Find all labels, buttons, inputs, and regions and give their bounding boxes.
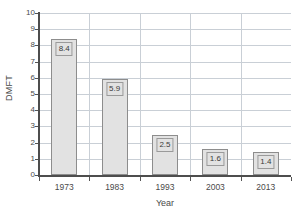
bar[interactable] — [51, 39, 77, 175]
bar-value-label: 1.6 — [207, 152, 224, 166]
x-axis-tick-label: 1983 — [105, 182, 124, 192]
x-axis-tick-label: 1993 — [156, 182, 175, 192]
x-axis-tickmark — [89, 177, 90, 181]
y-axis-title: DMFT — [0, 0, 18, 175]
bar-value-label: 2.5 — [156, 138, 173, 152]
x-axis-tick-label: 2013 — [256, 182, 275, 192]
bar-group: 2.5 — [140, 13, 190, 175]
plot-area: 8.45.92.51.61.4 — [39, 13, 291, 175]
x-axis-tick-labels: 19731983199320032013 — [39, 182, 291, 196]
x-axis-tick-label: 1973 — [55, 182, 74, 192]
x-axis-title: Year — [39, 198, 291, 208]
x-axis-tickmark — [140, 177, 141, 181]
bar-chart: DMFT 012345678910 8.45.92.51.61.4 197319… — [0, 0, 303, 219]
bar-value-label: 5.9 — [106, 82, 123, 96]
bar-value-label: 1.4 — [257, 155, 274, 169]
bar-group: 1.4 — [241, 13, 291, 175]
x-axis-tickmark — [39, 177, 40, 181]
x-axis-tickmark — [190, 177, 191, 181]
y-axis-line — [38, 12, 40, 176]
bar-value-label: 8.4 — [56, 42, 73, 56]
x-axis-tickmark — [241, 177, 242, 181]
x-axis-tickmark — [291, 177, 292, 181]
y-axis-title-text: DMFT — [4, 75, 14, 101]
bar-group: 8.4 — [39, 13, 89, 175]
x-axis-tick-label: 2003 — [206, 182, 225, 192]
bar-group: 1.6 — [190, 13, 240, 175]
bar-group: 5.9 — [89, 13, 139, 175]
